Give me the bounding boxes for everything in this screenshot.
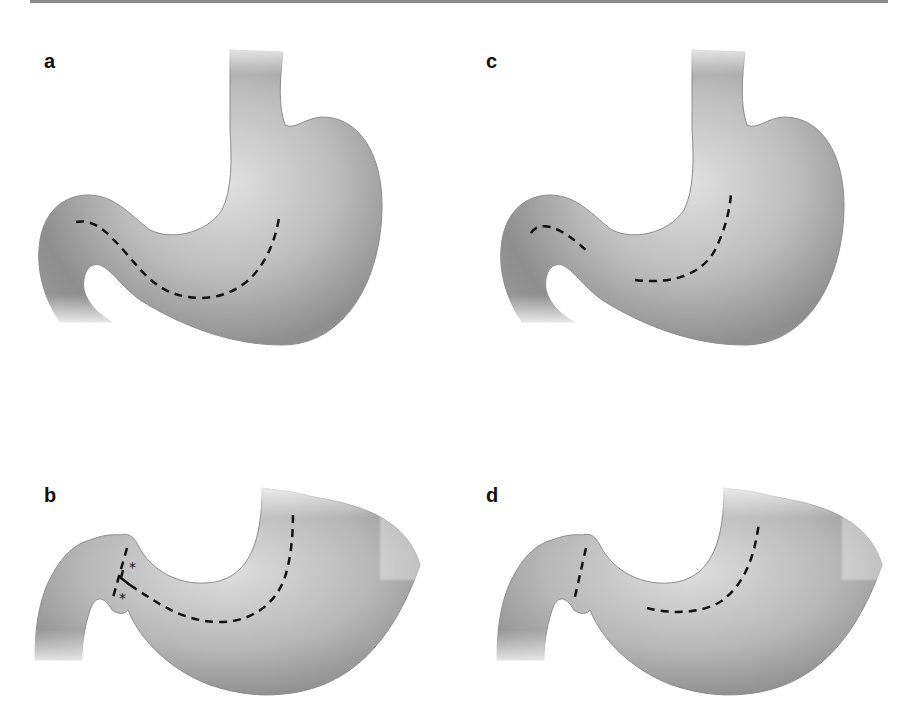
esophagus-fade-a [220, 40, 295, 75]
duodenum-fade-c [492, 295, 592, 330]
panel-a: a [30, 40, 382, 345]
asterisk-marker-upper: * [129, 559, 136, 575]
panel-label-b: b [44, 484, 56, 506]
duodenum-fade-d [487, 630, 557, 670]
panel-label-a: a [44, 50, 56, 72]
asterisk-marker-lower: * [119, 590, 126, 606]
stomach-d [487, 478, 892, 695]
stomach-b: * * [25, 478, 430, 695]
esophagus-fade-c [682, 40, 757, 75]
panel-label-c: c [486, 50, 497, 72]
panel-b: b * * [25, 478, 430, 695]
stomach-a [30, 40, 382, 345]
duodenum-fade-a [30, 295, 130, 330]
stomach-c [492, 40, 844, 345]
panel-d: d [486, 478, 892, 695]
duodenum-fade-b [25, 630, 95, 670]
panel-label-d: d [486, 484, 498, 506]
stomach-figure: a c b * * d [0, 0, 912, 723]
right-fade-b [380, 500, 430, 580]
right-fade-d [842, 500, 892, 580]
panel-c: c [486, 40, 844, 345]
